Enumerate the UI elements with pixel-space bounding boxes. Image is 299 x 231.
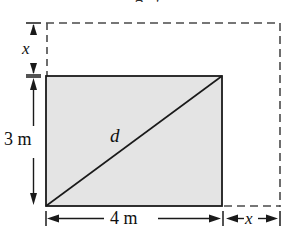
inner-shaded-rectangle xyxy=(46,76,222,206)
x-top-upper-arrowhead xyxy=(30,24,37,35)
x-top-lower-arrowhead xyxy=(30,63,37,74)
geometry-figure: g y xyxy=(0,0,299,231)
label-height: 3 m xyxy=(4,130,32,148)
label-diagonal: d xyxy=(110,126,120,145)
figure-canvas xyxy=(0,0,299,231)
dimension-x-right xyxy=(226,211,280,226)
x-right-right-arrowhead xyxy=(266,215,278,223)
label-x-top: x xyxy=(22,40,30,57)
height-lower-arrowhead xyxy=(30,193,37,205)
label-x-right: x xyxy=(245,210,253,227)
label-width: 4 m xyxy=(110,209,138,227)
width-right-arrowhead xyxy=(209,215,221,223)
